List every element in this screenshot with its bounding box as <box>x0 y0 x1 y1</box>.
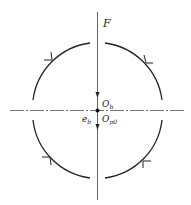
force-arrow-lower-icon <box>96 124 100 130</box>
arc-top-right <box>105 43 162 100</box>
arc-top-left <box>33 43 90 100</box>
arc-marker-top-right-icon <box>144 55 153 63</box>
force-label: F <box>102 17 111 30</box>
force-arrow-upper-icon <box>96 92 100 98</box>
center-lower-label: Op0 <box>102 114 117 126</box>
arc-marker-bottom-right-icon <box>143 161 151 168</box>
arc-bottom-right <box>105 120 162 178</box>
arc-bottom-left <box>33 120 90 178</box>
center-upper-label: Ob <box>102 99 113 110</box>
center-point <box>96 109 100 113</box>
arc-marker-top-left-icon <box>44 52 52 60</box>
eccentricity-label: eb <box>82 114 91 125</box>
arc-marker-bottom-left-icon <box>42 157 51 165</box>
diagram-canvas: F Ob eb Op0 <box>0 0 191 205</box>
